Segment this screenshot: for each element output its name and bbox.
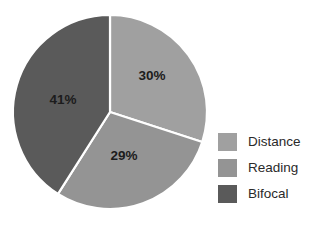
pie-slice-group <box>13 15 207 209</box>
legend-swatch-distance <box>218 133 237 151</box>
legend-item-bifocal[interactable]: Bifocal <box>218 181 326 206</box>
legend-item-distance[interactable]: Distance <box>218 129 326 154</box>
pie-slice-label-reading: 29% <box>110 148 137 163</box>
pie-slice-label-bifocal: 41% <box>49 92 76 107</box>
legend-label-distance: Distance <box>248 135 301 149</box>
legend-item-reading[interactable]: Reading <box>218 155 326 180</box>
legend-label-reading: Reading <box>248 161 298 175</box>
legend-swatch-reading <box>218 159 237 177</box>
legend-label-bifocal: Bifocal <box>248 187 289 201</box>
legend-swatch-bifocal <box>218 185 237 203</box>
chart-legend: DistanceReadingBifocal <box>218 129 326 207</box>
pie-chart: 30%29%41% DistanceReadingBifocal <box>0 0 328 225</box>
pie-slice-label-distance: 30% <box>138 68 165 83</box>
